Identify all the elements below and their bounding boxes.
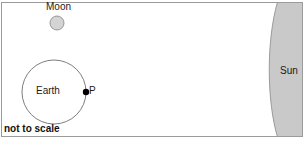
diagram-canvas: Moon Earth Sun P not to scale [0, 0, 305, 142]
earth-label: Earth [36, 86, 60, 96]
diagram-graphics [0, 0, 305, 142]
moon-body [50, 16, 64, 30]
sun-label: Sun [280, 66, 298, 76]
point-p-label: P [89, 86, 96, 96]
not-to-scale-caption: not to scale [4, 124, 60, 134]
moon-label: Moon [46, 2, 71, 12]
